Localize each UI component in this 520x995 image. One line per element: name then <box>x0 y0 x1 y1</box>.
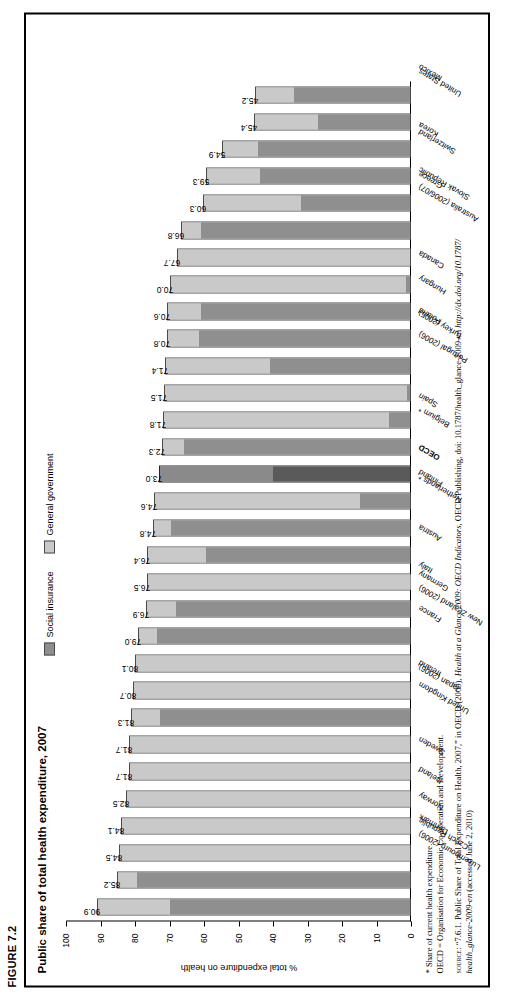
bar-segment-social-insurance <box>258 141 410 156</box>
figure-title: Public share of total health expenditure… <box>36 726 48 973</box>
y-tick: 60 <box>204 921 205 926</box>
bar-column[interactable]: 76.5Italy <box>66 568 411 595</box>
bar-column[interactable]: 70.8Poland <box>66 325 411 352</box>
stacked-bar[interactable]: 79.0 <box>138 627 411 644</box>
y-tick-label: 60 <box>199 933 209 942</box>
stacked-bar[interactable]: 81.7 <box>129 735 411 752</box>
stacked-bar[interactable]: 60.3 <box>203 194 411 211</box>
bar-column[interactable]: 84.1Norway <box>66 812 411 839</box>
legend-label-general-government: General government <box>45 453 55 535</box>
bar-column[interactable]: 70.0Canada <box>66 271 411 298</box>
bar-segment-social-insurance <box>318 114 410 129</box>
bar-column[interactable]: 71.4Turkey (2005) <box>66 352 411 379</box>
plot-area: % total expenditure on health 1009080706… <box>66 81 411 921</box>
bar-column[interactable]: 74.6Finland <box>66 487 411 514</box>
bar-column[interactable]: 71.8Spain <box>66 406 411 433</box>
figure-label: FIGURE 7.2 <box>6 925 18 987</box>
stacked-bar[interactable]: 70.8 <box>167 330 411 347</box>
bar-value-label: 72.3 <box>148 446 165 456</box>
source-text-a: “7.6.1. Public Share of Total Expenditur… <box>453 676 463 947</box>
bar-segment-general-government <box>164 412 389 427</box>
chart-legend: Social insurance General government <box>44 453 55 655</box>
stacked-bar[interactable]: 80.1 <box>135 654 411 671</box>
stacked-bar[interactable]: 67.7 <box>177 248 411 265</box>
stacked-bar[interactable]: 82.5 <box>126 790 411 807</box>
bar-column[interactable]: 59.3Switzerland <box>66 162 411 189</box>
stacked-bar[interactable]: 54.9 <box>222 140 411 157</box>
bar-segment-general-government <box>127 791 410 806</box>
bar-column[interactable]: 66.8Slovak Republic <box>66 216 411 243</box>
stacked-bar[interactable]: 45.2 <box>255 86 411 103</box>
y-tick: 80 <box>135 921 136 926</box>
bar-value-label: 80.1 <box>121 663 138 673</box>
source-title-italic: Health at a Glance 2009: OECD Indicators <box>453 525 463 676</box>
bar-value-label: 45.2 <box>242 95 259 105</box>
bar-column[interactable]: 81.3Japan (2006) <box>66 704 411 731</box>
bar-value-label: 85.2 <box>104 879 121 889</box>
stacked-bar[interactable]: 81.7 <box>129 763 411 780</box>
bar-column[interactable]: 81.7United Kingdom <box>66 731 411 758</box>
bar-segment-social-insurance <box>406 276 410 291</box>
bar-value-label: 59.3 <box>193 176 210 186</box>
stacked-bar[interactable]: 90.9 <box>97 898 411 915</box>
stacked-bar[interactable]: 74.6 <box>154 492 411 509</box>
y-tick-label: 90 <box>96 933 106 942</box>
stacked-bar[interactable]: 84.5 <box>119 844 411 861</box>
bar-column[interactable]: 74.8Netherlands * <box>66 514 411 541</box>
stacked-bar[interactable]: 70.0 <box>170 275 412 292</box>
bar-segment-social-insurance <box>201 222 410 237</box>
bar-segment-social-insurance <box>389 412 410 427</box>
bar-column[interactable]: 82.5Iceland <box>66 785 411 812</box>
note-footnote: * Share of current health expenditure. <box>424 23 435 973</box>
bar-segment-general-government <box>132 709 161 724</box>
stacked-bar[interactable]: 76.5 <box>147 573 411 590</box>
bar-column[interactable]: 54.9Korea <box>66 135 411 162</box>
stacked-bar[interactable]: 59.3 <box>206 167 411 184</box>
bar-column[interactable]: 45.2Mexico <box>66 81 411 108</box>
stacked-bar[interactable]: 76.4 <box>147 546 411 563</box>
stacked-bar[interactable]: 71.4 <box>165 357 411 374</box>
bar-column[interactable]: 67.7Australia (2006/07) <box>66 243 411 270</box>
stacked-bar[interactable]: 85.2 <box>117 871 411 888</box>
stacked-bar[interactable]: 76.9 <box>146 600 411 617</box>
bar-column[interactable]: 81.7Sweden <box>66 758 411 785</box>
stacked-bar[interactable]: 84.1 <box>121 817 411 834</box>
stacked-bar[interactable]: 45.4 <box>254 113 411 130</box>
bar-column[interactable]: 45.4United States <box>66 108 411 135</box>
source-url-part1[interactable]: http://dx.doi.org/10.1787/ <box>453 239 463 328</box>
bar-column[interactable]: 76.4Austria <box>66 541 411 568</box>
y-tick: 50 <box>239 921 240 926</box>
bar-column[interactable]: 60.3Greece <box>66 189 411 216</box>
stacked-bar[interactable]: 74.8 <box>153 519 411 536</box>
stacked-bar[interactable]: 80.7 <box>133 681 411 698</box>
stacked-bar[interactable]: 66.8 <box>181 221 411 238</box>
bar-column[interactable]: 80.7Ireland <box>66 676 411 703</box>
bar-segment-general-government <box>223 141 259 156</box>
bar-value-label: 67.7 <box>164 257 181 267</box>
stacked-bar[interactable]: 72.3 <box>162 438 411 455</box>
stacked-bar[interactable]: 81.3 <box>131 708 411 725</box>
bar-segment-general-government <box>98 899 170 914</box>
bar-column[interactable]: 76.9Germany <box>66 595 411 622</box>
bar-segment-social-insurance <box>270 358 410 373</box>
bar-column[interactable]: 72.3Belgium * <box>66 433 411 460</box>
bar-value-label: 80.7 <box>119 690 136 700</box>
bar-column[interactable]: 71.5Portugal (2006) <box>66 379 411 406</box>
bar-column[interactable]: 73.0OECD <box>66 460 411 487</box>
bar-segment-social-insurance <box>160 709 410 724</box>
stacked-bar[interactable]: 71.5 <box>164 384 411 401</box>
bar-column[interactable]: 80.1New Zealand (2006) <box>66 649 411 676</box>
bar-column[interactable]: 90.9Luxembourg (2006) <box>66 893 411 920</box>
bar-column[interactable]: 85.2Czech Republic <box>66 866 411 893</box>
legend-swatch-social-insurance <box>44 642 55 655</box>
stacked-bar[interactable]: 73.0 <box>159 465 411 482</box>
bar-column[interactable]: 79.0France <box>66 622 411 649</box>
bar-column[interactable]: 84.5Denmark <box>66 839 411 866</box>
bar-column[interactable]: 70.6Hungary <box>66 298 411 325</box>
bar-segment-social-insurance <box>273 466 410 481</box>
stacked-bar[interactable]: 71.8 <box>163 411 411 428</box>
stacked-bar[interactable]: 70.6 <box>167 302 411 319</box>
y-tick-label: 80 <box>130 933 140 942</box>
bar-segment-general-government <box>118 872 137 887</box>
source-url-part2[interactable]: health_glance-2009-en <box>464 893 474 973</box>
